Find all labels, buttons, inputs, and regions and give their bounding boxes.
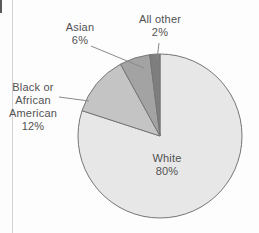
label-white-pct: 80% (135, 165, 199, 178)
label-white-name: White (135, 152, 199, 165)
label-all-other-name: All other (128, 13, 192, 26)
label-asian-pct: 6% (50, 34, 110, 47)
label-white: White 80% (135, 152, 199, 178)
leader-line-asian (91, 46, 144, 68)
figure-canvas: Asian 6% All other 2% Black or African A… (0, 0, 259, 233)
label-black-line2: African (1, 94, 65, 107)
label-black-or-african-american: Black or African American 12% (1, 81, 65, 133)
label-black-line3: American (1, 107, 65, 120)
label-black-pct: 12% (1, 120, 65, 133)
label-black-line1: Black or (1, 81, 65, 94)
label-asian-name: Asian (50, 21, 110, 34)
label-all-other-pct: 2% (128, 26, 192, 39)
label-asian: Asian 6% (50, 21, 110, 47)
label-all-other: All other 2% (128, 13, 192, 39)
